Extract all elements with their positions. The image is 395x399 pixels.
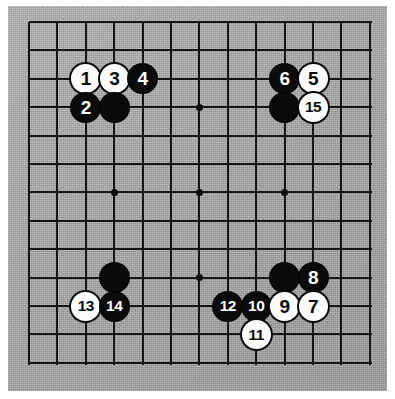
- stone-15[interactable]: 15: [299, 93, 328, 122]
- grid-line-vertical-12: [340, 22, 342, 365]
- stone-7-label: 7: [308, 296, 318, 315]
- stone-10[interactable]: 10: [242, 292, 271, 321]
- grid-line-horizontal-9: [29, 248, 372, 250]
- go-diagram-screenshot: 134652158131412109711: [0, 0, 395, 399]
- stone-9[interactable]: 9: [270, 292, 299, 321]
- stone-10-label: 10: [248, 298, 264, 314]
- star-point-5: [196, 189, 203, 196]
- grid-line-horizontal-12: [29, 333, 372, 335]
- star-point-8: [196, 274, 203, 281]
- grid-line-horizontal-8: [29, 220, 372, 222]
- go-board-grid: [8, 6, 387, 391]
- stone-13-label: 13: [78, 298, 94, 314]
- stone-5[interactable]: 5: [299, 64, 328, 93]
- stone-7[interactable]: 7: [299, 292, 328, 321]
- stone-8[interactable]: 8: [299, 263, 328, 292]
- stone-11[interactable]: 11: [242, 320, 271, 349]
- star-point-6: [281, 189, 288, 196]
- grid-line-horizontal-1: [29, 21, 372, 23]
- stone-14-label: 14: [106, 298, 122, 314]
- stone-2[interactable]: 2: [71, 93, 100, 122]
- stone-9-label: 9: [280, 296, 290, 315]
- stone-3[interactable]: 3: [100, 64, 129, 93]
- grid-line-vertical-1: [28, 22, 30, 365]
- stone-15-label: 15: [305, 99, 321, 115]
- stone-unnumbered-black-top-left[interactable]: [100, 93, 129, 122]
- stone-2-label: 2: [81, 97, 91, 116]
- star-point-4: [111, 189, 118, 196]
- stone-5-label: 5: [308, 69, 318, 88]
- star-point-2: [196, 104, 203, 111]
- stone-unnumbered-black-bottom-left[interactable]: [100, 263, 129, 292]
- grid-line-horizontal-13: [29, 362, 372, 364]
- grid-line-horizontal-2: [29, 49, 372, 51]
- stone-unnumbered-black-bottom-right[interactable]: [270, 263, 299, 292]
- grid-line-horizontal-5: [29, 135, 372, 137]
- grid-line-vertical-2: [56, 22, 58, 365]
- grid-line-vertical-6: [170, 22, 172, 365]
- stone-12[interactable]: 12: [213, 292, 242, 321]
- stone-3-label: 3: [109, 69, 119, 88]
- stone-6-label: 6: [280, 69, 290, 88]
- stone-4-label: 4: [138, 69, 148, 88]
- grid-line-vertical-13: [369, 22, 371, 365]
- stone-12-label: 12: [220, 298, 236, 314]
- go-board-surface: 134652158131412109711: [8, 6, 387, 391]
- stone-1-label: 1: [81, 69, 91, 88]
- stone-8-label: 8: [308, 268, 318, 287]
- stone-14[interactable]: 14: [100, 292, 129, 321]
- grid-line-horizontal-6: [29, 163, 372, 165]
- stone-unnumbered-black-top-right[interactable]: [270, 93, 299, 122]
- stone-13[interactable]: 13: [71, 292, 100, 321]
- stone-11-label: 11: [248, 326, 263, 342]
